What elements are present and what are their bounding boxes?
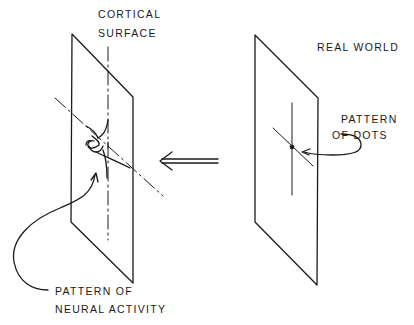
double-arrow-icon bbox=[160, 152, 218, 170]
cortical-surface-plane bbox=[71, 34, 133, 283]
pattern-of-dots-label-line2: OF DOTS bbox=[332, 125, 388, 145]
neural-activity-label-line2: NEURAL ACTIVITY bbox=[55, 299, 166, 319]
cortical-surface-label-line1: CORTICAL bbox=[98, 4, 161, 24]
pattern-of-dots-icon bbox=[273, 103, 313, 195]
neural-activity-label-line1: PATTERN OF bbox=[55, 281, 133, 301]
diagram-canvas: CORTICAL SURFACE REAL WORLD PATTERN OF D… bbox=[0, 0, 414, 325]
cortical-surface-label-line2: SURFACE bbox=[98, 23, 157, 43]
real-world-plane bbox=[255, 35, 318, 285]
real-world-label: REAL WORLD bbox=[317, 37, 399, 57]
neural-activity-pointer bbox=[13, 173, 98, 290]
